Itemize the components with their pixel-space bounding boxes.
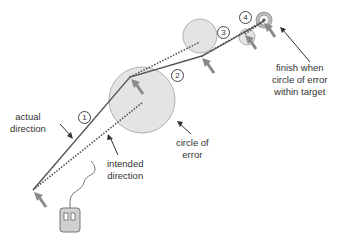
step-1-badge: 1 (78, 111, 91, 124)
cursor-arrow-icon (202, 58, 214, 73)
cursor-arrow-icon (264, 23, 275, 37)
mouse-icon (60, 161, 95, 232)
actual-direction-label: actual direction (10, 111, 46, 135)
circle-of-error-3 (183, 19, 217, 53)
pointing-diagram (0, 0, 343, 246)
step-4-badge: 4 (239, 11, 252, 24)
circle-of-error-large (109, 67, 175, 133)
step-2-badge: 2 (171, 69, 184, 82)
circle-of-error-label: circle of error (176, 137, 209, 161)
cursor-arrow-icon (34, 192, 46, 207)
intended-direction-label: intended direction (107, 158, 143, 182)
finish-label: finish when circle of error within targe… (272, 62, 327, 98)
step-3-badge: 3 (217, 26, 230, 39)
